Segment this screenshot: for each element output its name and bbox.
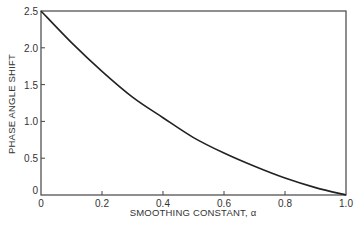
y-axis-title: PHASE ANGLE SHIFT — [6, 54, 17, 154]
x-axis-title: SMOOTHING CONSTANT, α — [130, 207, 257, 218]
chart: 00.51.01.52.02.5 00.20.40.60.81.0 PHASE … — [0, 0, 358, 229]
y-tick-label: 2.0 — [24, 43, 38, 54]
x-tick-label: 0.8 — [278, 198, 292, 209]
y-axis-ticks: 00.51.01.52.02.5 — [24, 6, 45, 196]
y-tick-label: 0.5 — [24, 153, 38, 164]
y-tick-label: 2.5 — [24, 6, 38, 17]
x-tick-label: 0.2 — [95, 198, 109, 209]
plot-frame — [41, 11, 346, 195]
x-tick-label: 1.0 — [339, 198, 353, 209]
x-tick-label: 0 — [38, 198, 44, 209]
y-tick-label: 1.5 — [24, 80, 38, 91]
y-tick-label: 0 — [32, 185, 38, 196]
y-tick-label: 1.0 — [24, 116, 38, 127]
data-line — [41, 11, 346, 195]
